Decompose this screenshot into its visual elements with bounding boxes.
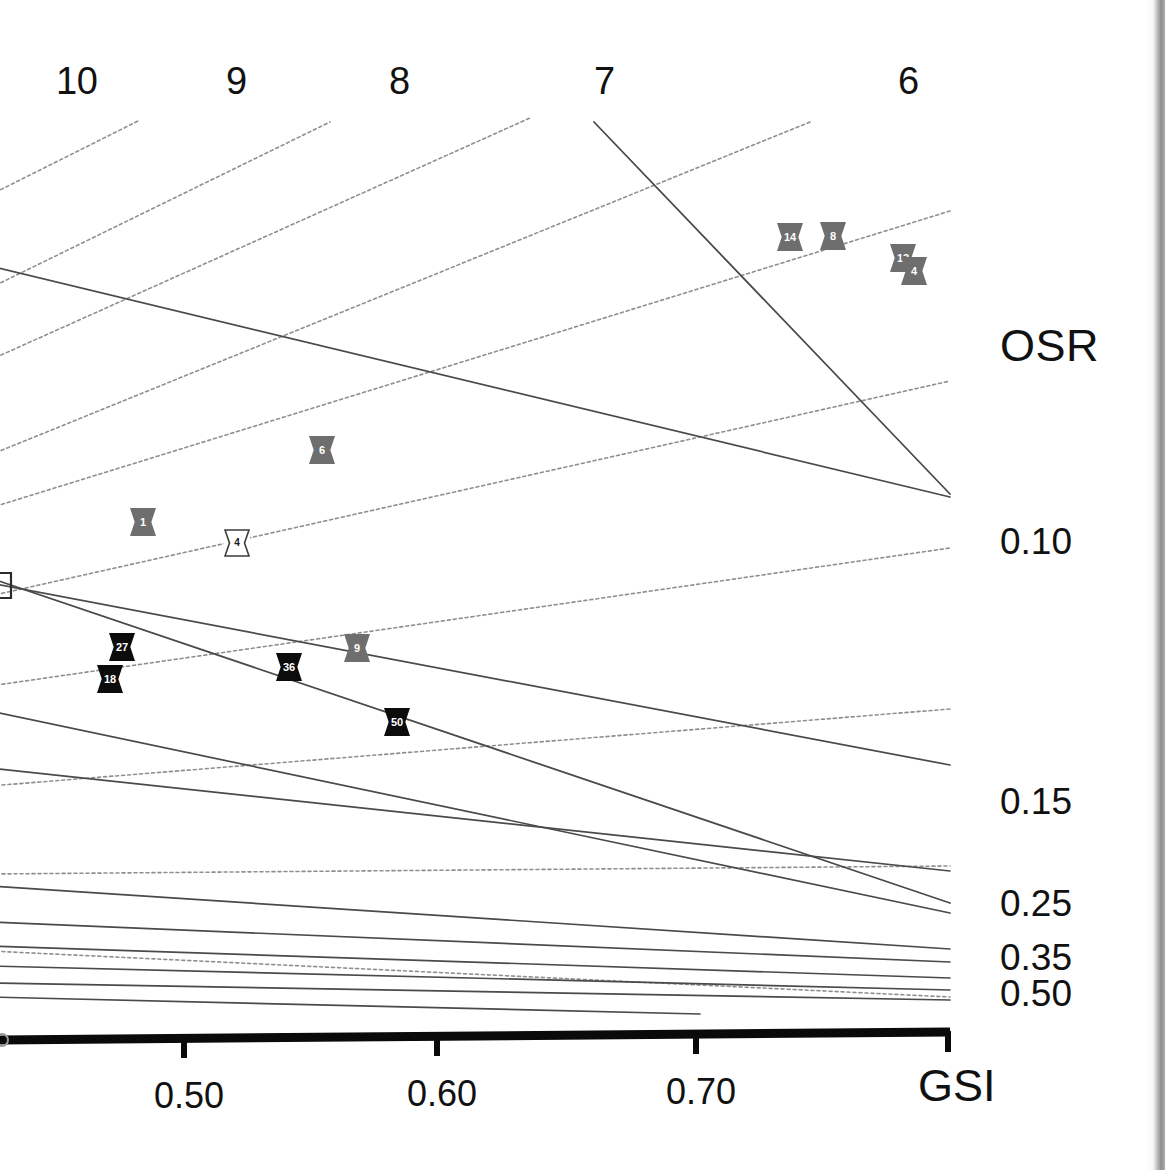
osr-contour-group <box>0 266 950 1014</box>
top-axis-tick-10: 10 <box>56 60 97 103</box>
gsi-ratio-line <box>0 381 950 596</box>
gsi-ratio-line <box>0 120 140 195</box>
chart-figure: 10 9 8 7 6 OSR 0.10 0.15 0.25 0.35 0.50 … <box>0 0 1165 1170</box>
gsi-ratio-line <box>0 866 950 874</box>
top-axis-tick-8: 8 <box>389 60 410 103</box>
gsi-ratio-line <box>0 709 950 786</box>
top-axis-tick-7: 7 <box>594 60 615 103</box>
bottom-axis <box>0 1031 950 1058</box>
osr-contour-line <box>0 997 700 1014</box>
right-axis-title-osr: OSR <box>1000 320 1099 372</box>
osr-contour-line <box>0 266 950 497</box>
top-axis-tick-6: 6 <box>898 60 919 103</box>
top-scale-line <box>594 122 950 494</box>
bottom-axis-line <box>0 1032 950 1040</box>
osr-contour-line <box>0 583 950 765</box>
top-scale-line <box>0 578 950 903</box>
gsi-ratio-line <box>0 122 810 455</box>
plot-canvas <box>0 0 1165 1170</box>
right-axis-tick-015: 0.15 <box>1000 781 1072 823</box>
osr-contour-line <box>0 983 950 1000</box>
gsi-ratio-line <box>0 548 950 686</box>
data-marker[interactable]: 4 <box>224 529 250 557</box>
right-axis-tick-050: 0.50 <box>1000 973 1072 1015</box>
bottom-axis-tick-050: 0.50 <box>154 1075 224 1117</box>
top-axis-tick-9: 9 <box>226 60 247 103</box>
data-marker-label: 4 <box>234 538 240 548</box>
bottom-axis-tick-060: 0.60 <box>407 1073 477 1115</box>
bottom-axis-title-gsi: GSI <box>918 1060 996 1112</box>
osr-contour-line <box>0 946 950 978</box>
gsi-ratio-line <box>0 122 330 288</box>
page-edge-shadow <box>1151 0 1165 1170</box>
right-axis-tick-010: 0.10 <box>1000 521 1072 563</box>
gsi-ratio-line-group <box>0 118 950 997</box>
osr-contour-line <box>0 922 950 962</box>
osr-contour-line <box>0 886 950 949</box>
right-axis-tick-025: 0.25 <box>1000 883 1072 925</box>
bottom-axis-tick-070: 0.70 <box>666 1071 736 1113</box>
